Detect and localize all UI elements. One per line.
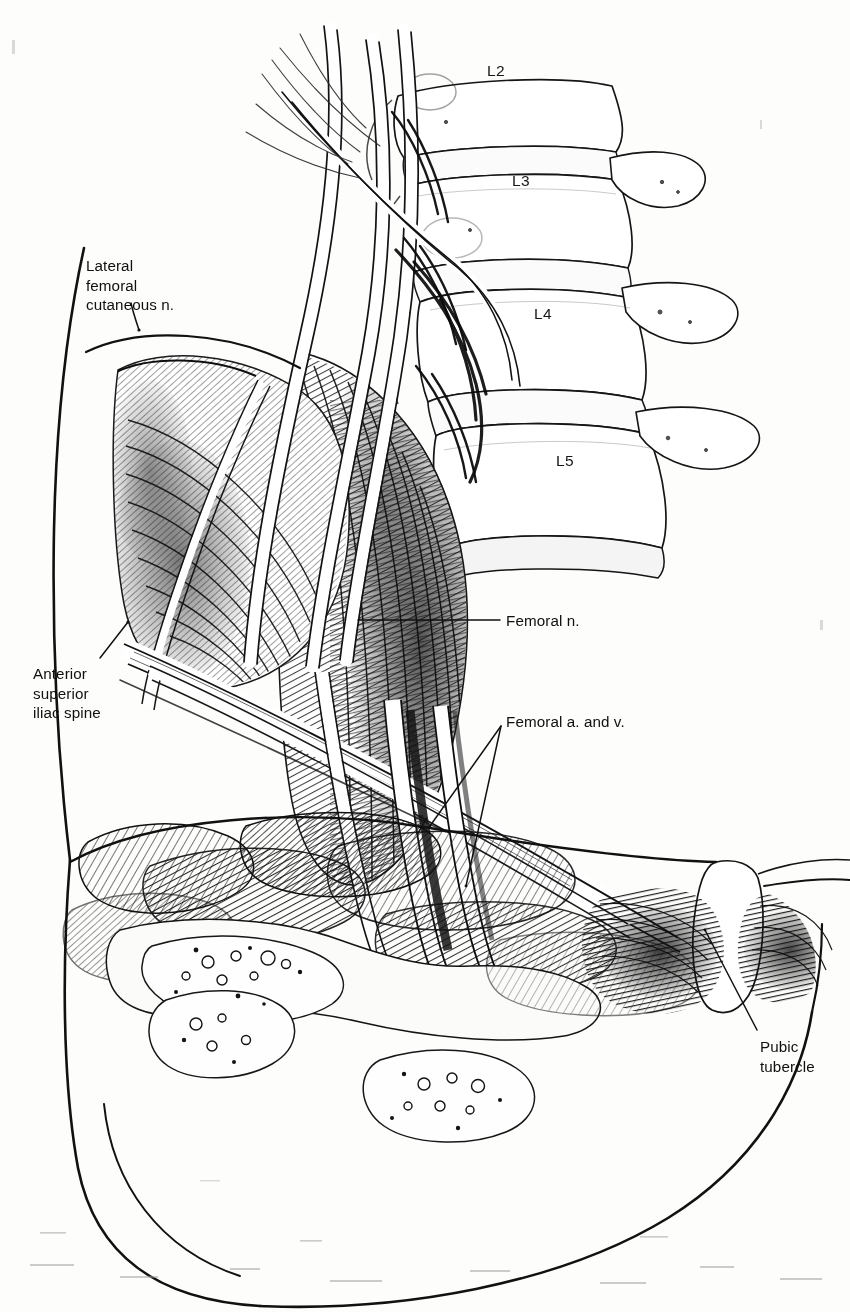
vertebra-label-L5: L5 — [556, 452, 574, 470]
label-lateral-femoral-cutaneous-nerve: Lateral femoral cutaneous n. — [86, 256, 174, 315]
label-femoral-artery-and-vein: Femoral a. and v. — [506, 712, 625, 732]
anatomical-figure: L2 L3 L4 L5 Lateral femoral cutaneous n.… — [0, 0, 850, 1312]
vertebra-label-L3: L3 — [512, 172, 530, 190]
vertebra-label-L2: L2 — [487, 62, 505, 80]
label-femoral-nerve: Femoral n. — [506, 611, 580, 631]
label-anterior-superior-iliac-spine: Anterior superior iliac spine — [33, 664, 101, 723]
vertebra-label-L4: L4 — [534, 305, 552, 323]
vertebra-L5-body — [434, 424, 666, 548]
fat-island-lower-right — [363, 1050, 534, 1142]
label-pubic-tubercle: Pubic tubercle — [760, 1037, 815, 1076]
anatomy-illustration — [0, 0, 850, 1312]
